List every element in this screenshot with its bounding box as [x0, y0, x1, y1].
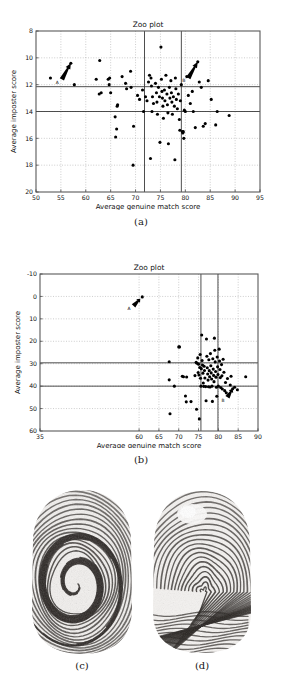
scatter-point	[184, 394, 187, 397]
scatter-point	[214, 376, 217, 379]
fingerprint-loop-image	[148, 488, 256, 656]
y-tick-label: 8	[29, 27, 33, 34]
scatter-point	[149, 76, 152, 79]
scatter-point	[195, 408, 198, 411]
scatter-point	[210, 377, 213, 380]
scatter-point	[180, 83, 183, 86]
scatter-point	[206, 372, 209, 375]
scatter-point	[220, 363, 223, 366]
scatter-point	[216, 365, 219, 368]
scatter-point	[244, 375, 247, 378]
scatter-point	[121, 75, 124, 78]
scatter-point	[191, 90, 194, 93]
scatter-point	[210, 98, 213, 101]
annotation-label-a: A	[56, 80, 59, 85]
scatter-point	[173, 385, 176, 388]
scatter-point	[108, 83, 111, 86]
x-tick-label: 75	[157, 194, 165, 201]
y-tick-label: 50	[29, 405, 37, 412]
y-tick-label: 40	[29, 382, 37, 389]
scatter-point	[213, 337, 216, 340]
y-tick-label: 60	[29, 427, 37, 434]
scatter-point	[189, 400, 192, 403]
scatter-point	[132, 164, 135, 167]
x-tick-label: 90	[254, 433, 262, 440]
x-tick-label: 90	[231, 194, 239, 201]
panel-b: AB3560657075808590-100102030405060Zoo pl…	[0, 248, 282, 458]
y-tick-label: 20	[29, 337, 37, 344]
scatter-point	[147, 80, 150, 83]
scatter-point	[202, 125, 205, 128]
scatter-point	[161, 97, 164, 100]
plot-title: Zoo plot	[133, 20, 164, 29]
scatter-point	[214, 370, 217, 373]
annotation-label-a: A	[128, 306, 131, 311]
scatter-point	[200, 367, 203, 370]
scatter-point	[189, 102, 192, 105]
scatter-point	[233, 386, 236, 389]
x-tick-label: 55	[57, 194, 65, 201]
scatter-point	[176, 107, 179, 110]
scatter-point	[207, 358, 210, 361]
x-tick-label: 85	[206, 194, 214, 201]
x-tick-label: 80	[214, 433, 222, 440]
plot-area	[40, 274, 258, 431]
plot-title: Zoo plot	[134, 263, 165, 272]
scatter-point	[49, 76, 52, 79]
zoo-plot-a-svg: AB505560657075808590958101214161820Zoo p…	[0, 0, 282, 210]
scatter-point	[218, 348, 221, 351]
y-axis-label: Average imposter score	[10, 70, 18, 153]
scatter-point	[170, 91, 173, 94]
scatter-point	[182, 130, 185, 133]
scatter-point	[95, 78, 98, 81]
scatter-point	[168, 360, 171, 363]
scatter-point	[203, 377, 206, 380]
scatter-point	[136, 94, 139, 97]
scatter-point	[216, 373, 219, 376]
scatter-point	[197, 373, 200, 376]
scatter-point	[155, 101, 158, 104]
x-tick-label: 60	[135, 433, 143, 440]
x-axis-label: Average genuine match score	[97, 442, 202, 448]
scatter-point	[115, 127, 118, 130]
scatter-point	[222, 358, 225, 361]
scatter-point	[201, 372, 204, 375]
scatter-point	[161, 105, 164, 108]
scatter-point	[205, 337, 208, 340]
x-tick-label: 50	[32, 194, 40, 201]
scatter-point	[168, 86, 171, 89]
scatter-point	[199, 353, 202, 356]
x-tick-label: 35	[36, 433, 44, 440]
scatter-point	[142, 110, 145, 113]
scatter-point	[198, 417, 201, 420]
scatter-point	[218, 368, 221, 371]
scatter-point	[168, 97, 171, 100]
scatter-point	[182, 375, 185, 378]
scatter-point	[73, 83, 76, 86]
scatter-point	[216, 110, 219, 113]
scatter-point	[163, 99, 166, 102]
scatter-point	[173, 105, 176, 108]
scatter-point	[159, 46, 162, 49]
scatter-point	[196, 356, 199, 359]
scatter-point	[203, 369, 206, 372]
scatter-point	[187, 94, 190, 97]
x-tick-label: 60	[82, 194, 90, 201]
scatter-point	[212, 380, 215, 383]
scatter-point	[169, 79, 172, 82]
caption-a: (a)	[0, 216, 282, 227]
scatter-point	[228, 114, 231, 117]
caption-d: (d)	[148, 660, 256, 671]
x-tick-label: 70	[175, 433, 183, 440]
scatter-point	[207, 79, 210, 82]
scatter-point	[114, 115, 117, 118]
scatter-point	[209, 364, 212, 367]
y-tick-label: 14	[25, 108, 33, 115]
scatter-point	[141, 88, 144, 91]
scatter-point	[213, 349, 216, 352]
scatter-point	[168, 412, 171, 415]
scatter-point	[222, 371, 225, 374]
scatter-point	[212, 368, 215, 371]
y-tick-label: 18	[25, 161, 33, 168]
figure-page: AB505560657075808590958101214161820Zoo p…	[0, 0, 282, 698]
